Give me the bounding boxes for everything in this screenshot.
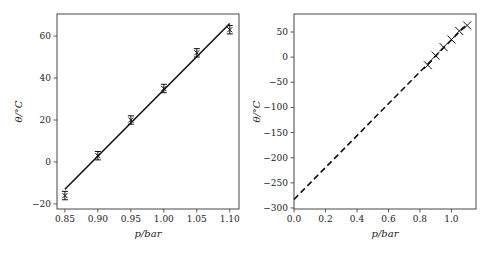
x-axis-label: p/bar bbox=[372, 228, 400, 239]
y-tick-label: 40 bbox=[40, 73, 52, 83]
x-axis: 0.00.20.40.60.81.0 bbox=[287, 209, 459, 224]
extrapolation-line bbox=[294, 24, 467, 199]
y-tick-label: 0 bbox=[282, 52, 288, 62]
y-tick-label: −150 bbox=[263, 128, 288, 138]
y-tick-label: −300 bbox=[263, 203, 288, 213]
x-tick-label: 0.95 bbox=[121, 214, 141, 224]
data-points bbox=[62, 26, 233, 200]
y-tick-label: −50 bbox=[269, 77, 288, 87]
y-tick-label: 50 bbox=[277, 27, 289, 37]
subplot-2: 0.00.20.40.60.81.0−300−250−200−150−100−5… bbox=[251, 14, 476, 239]
y-tick-label: 20 bbox=[40, 115, 52, 125]
x-tick-label: 0.90 bbox=[88, 214, 108, 224]
y-tick-label: 60 bbox=[40, 31, 52, 41]
subplot-1: 0.850.900.951.001.051.10−200204060p/barθ… bbox=[13, 14, 240, 239]
y-axis-label: θ/°C bbox=[13, 100, 24, 122]
x-tick-label: 0.2 bbox=[318, 214, 332, 224]
y-tick-label: −250 bbox=[263, 178, 288, 188]
y-tick-label: −20 bbox=[32, 199, 51, 209]
y-tick-label: −200 bbox=[263, 153, 288, 163]
x-tick-label: 1.00 bbox=[154, 214, 174, 224]
x-axis-label: p/bar bbox=[135, 228, 163, 239]
y-axis-label: θ/°C bbox=[251, 100, 262, 122]
data-points bbox=[424, 21, 471, 69]
figure: 0.850.900.951.001.051.10−200204060p/barθ… bbox=[0, 0, 489, 253]
y-tick-label: 0 bbox=[45, 157, 51, 167]
x-tick-label: 0.0 bbox=[287, 214, 302, 224]
x-tick-label: 0.8 bbox=[413, 214, 428, 224]
x-tick-label: 0.85 bbox=[55, 214, 75, 224]
y-axis: −200204060 bbox=[32, 31, 57, 209]
x-tick-label: 0.4 bbox=[350, 214, 365, 224]
y-axis: −300−250−200−150−100−50050 bbox=[263, 27, 294, 213]
x-axis: 0.850.900.951.001.051.10 bbox=[55, 209, 240, 224]
y-tick-label: −100 bbox=[263, 102, 288, 112]
x-tick-label: 1.05 bbox=[187, 214, 207, 224]
plot-frame bbox=[57, 14, 239, 209]
x-tick-label: 1.10 bbox=[220, 214, 240, 224]
fit-line bbox=[65, 23, 230, 189]
x-tick-label: 0.6 bbox=[381, 214, 396, 224]
x-tick-label: 1.0 bbox=[444, 214, 459, 224]
